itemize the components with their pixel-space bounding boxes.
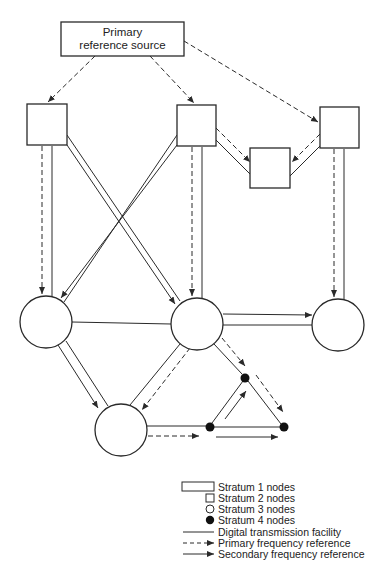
primary-source-label-line1: Primary	[103, 26, 143, 38]
dot-left-to-dot-top-secondary	[225, 391, 246, 419]
primary-source-label-line2: reference source	[79, 39, 165, 51]
left-s2-to-center-s3-facility	[67, 135, 180, 301]
stratum4-node-left	[206, 423, 215, 432]
legend: Stratum 1 nodes Stratum 2 nodes Stratum …	[182, 481, 365, 560]
right-s2-to-middle-s2-primary	[292, 134, 320, 162]
center-s3-to-dot-top-facility	[214, 344, 242, 374]
stratum3-node-center	[171, 298, 223, 350]
legend-stratum3-symbol	[206, 505, 214, 513]
stratum4-node-right	[280, 423, 289, 432]
stratum2-node-right	[320, 107, 359, 148]
legend-stratum4-label: Stratum 4 nodes	[218, 514, 295, 526]
stratum4-node-top	[241, 374, 250, 383]
primary-ref-to-center-s2	[150, 56, 194, 103]
legend-stratum2-symbol	[206, 494, 214, 502]
legend-secondary-ref-label: Secondary frequency reference	[218, 548, 365, 560]
stratum3-node-bottom-left	[95, 404, 147, 456]
center-s3-to-bottom-s3-primary	[142, 348, 190, 410]
legend-stratum1-symbol	[182, 482, 214, 491]
right-s2-to-middle-s2-facility	[290, 146, 320, 176]
center-s3-to-dot-top-primary	[222, 338, 245, 366]
center-s2-to-left-s3-facility	[64, 135, 177, 302]
stratum2-node-center	[177, 105, 216, 146]
stratum2-node-left	[27, 104, 67, 145]
stratum3-node-left	[20, 296, 72, 348]
sync-network-diagram: Primary reference source Stratum 1 nodes…	[0, 0, 386, 585]
primary-ref-to-left-s2	[48, 56, 95, 102]
stratum3-node-right	[312, 299, 364, 351]
left-s3-to-bottom-s3-facility	[66, 341, 108, 406]
stratum2-node-middle	[250, 148, 290, 188]
stratum1-primary-reference-source: Primary reference source	[61, 22, 184, 56]
dot-top-to-dot-right-primary	[256, 375, 283, 412]
left-s3-to-bottom-s3-secondary	[58, 345, 98, 408]
center-s2-to-left-s3-secondary	[61, 145, 177, 298]
center-s3-to-right-s3-secondary	[223, 314, 312, 315]
legend-stratum4-symbol	[206, 516, 214, 524]
center-s3-to-bottom-s3-facility	[130, 344, 180, 405]
left-s3-to-center-s3-facility	[72, 322, 171, 324]
